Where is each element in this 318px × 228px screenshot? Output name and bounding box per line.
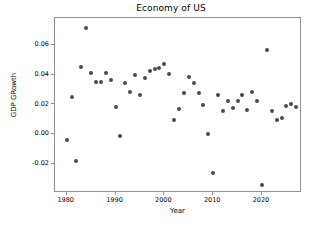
- data-point: [231, 106, 235, 110]
- data-point: [177, 107, 181, 111]
- data-point: [109, 78, 113, 82]
- y-tick-label: 0.06: [35, 39, 49, 49]
- y-axis-tick: 0.02: [0, 99, 54, 109]
- data-point: [187, 75, 191, 79]
- y-axis-tick: 0.06: [0, 39, 54, 49]
- data-point: [197, 91, 201, 95]
- data-point: [153, 67, 157, 71]
- data-point: [79, 65, 83, 69]
- data-point: [148, 69, 152, 73]
- data-point: [172, 118, 176, 122]
- data-point: [74, 159, 78, 163]
- data-point: [284, 104, 288, 108]
- data-point: [157, 66, 161, 70]
- y-axis: 0.060.040.020.00-0.02: [0, 17, 54, 192]
- data-point: [294, 105, 298, 109]
- scatter-plot-area: [55, 18, 300, 191]
- x-tick-label: 1980: [46, 196, 86, 205]
- data-point: [275, 118, 279, 122]
- chart-title: Economy of US: [0, 3, 318, 13]
- data-point: [118, 134, 122, 138]
- data-point: [123, 81, 127, 85]
- data-point: [133, 73, 137, 77]
- x-tick-label: 2020: [241, 196, 281, 205]
- data-point: [143, 76, 147, 80]
- data-point: [221, 109, 225, 113]
- x-axis-label: Year: [54, 207, 301, 215]
- data-point: [236, 99, 240, 103]
- data-point: [94, 80, 98, 84]
- data-point: [206, 132, 210, 136]
- data-point: [280, 116, 284, 120]
- data-point: [245, 108, 249, 112]
- data-point: [114, 105, 118, 109]
- data-point: [162, 62, 166, 66]
- y-tick-label: 0.04: [35, 69, 49, 79]
- data-point: [226, 99, 230, 103]
- x-tick-mark: [115, 192, 116, 195]
- data-point: [99, 80, 103, 84]
- data-point: [201, 103, 205, 107]
- data-point: [182, 91, 186, 95]
- data-point: [240, 93, 244, 97]
- data-point: [192, 81, 196, 85]
- x-tick-mark: [66, 192, 67, 195]
- y-axis-tick: -0.02: [0, 158, 54, 168]
- data-point: [128, 90, 132, 94]
- y-tick-label: 0.00: [35, 128, 49, 138]
- data-point: [265, 48, 269, 52]
- data-point: [211, 171, 215, 175]
- x-tick-mark: [163, 192, 164, 195]
- data-point: [65, 138, 69, 142]
- chart-figure: Economy of US GDP GRowth 0.060.040.020.0…: [0, 0, 318, 228]
- data-point: [89, 71, 93, 75]
- data-point: [70, 95, 74, 99]
- data-point: [104, 71, 108, 75]
- data-point: [216, 93, 220, 97]
- data-point: [84, 26, 88, 30]
- y-tick-label: -0.02: [32, 158, 49, 168]
- x-tick-label: 2000: [143, 196, 183, 205]
- x-tick-label: 2010: [192, 196, 232, 205]
- data-point: [289, 102, 293, 106]
- y-axis-tick: 0.04: [0, 69, 54, 79]
- data-point: [167, 72, 171, 76]
- y-axis-tick: 0.00: [0, 128, 54, 138]
- data-point: [260, 183, 264, 187]
- data-point: [255, 99, 259, 103]
- data-point: [138, 93, 142, 97]
- data-point: [250, 90, 254, 94]
- x-tick-label: 1990: [95, 196, 135, 205]
- plot-frame: [54, 17, 301, 192]
- x-tick-mark: [212, 192, 213, 195]
- y-tick-label: 0.02: [35, 99, 49, 109]
- data-point: [270, 109, 274, 113]
- x-tick-mark: [261, 192, 262, 195]
